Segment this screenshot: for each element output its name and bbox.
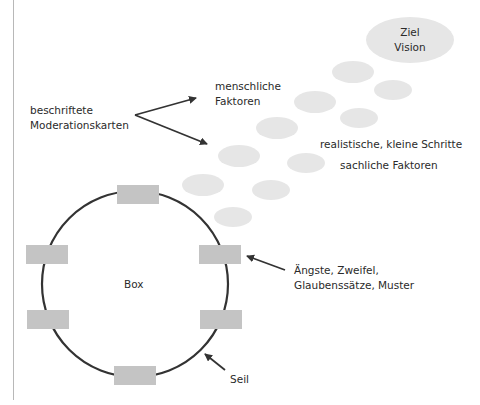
card-left-lower (27, 310, 69, 329)
fears-line1: Ängste, Zweifel, (294, 263, 414, 278)
card-top (117, 185, 159, 204)
box-label: Box (124, 277, 144, 292)
card-right-lower (200, 310, 242, 329)
human-line1: menschliche (215, 79, 281, 94)
step-ellipse (294, 91, 336, 113)
step-ellipse (287, 153, 325, 173)
step-ellipse (374, 80, 412, 100)
card-left-upper (26, 245, 68, 264)
factual-factors-label: sachliche Faktoren (340, 158, 438, 173)
step-ellipse (252, 180, 290, 200)
diagram-canvas (0, 0, 480, 405)
human-factors-label: menschliche Faktoren (215, 79, 281, 109)
human-line2: Faktoren (215, 94, 281, 109)
card-right-upper (199, 245, 241, 264)
fears-label: Ängste, Zweifel, Glaubenssätze, Muster (294, 263, 414, 293)
goal-line2: Vision (385, 40, 435, 55)
step-ellipse (340, 108, 378, 128)
goal-line1: Ziel (385, 25, 435, 40)
arrow-to-rope (205, 354, 225, 370)
arrow-to-human-factors (135, 98, 196, 115)
rope-label: Seil (230, 372, 249, 387)
cards-label: beschriftete Moderationskarten (30, 103, 129, 133)
fears-line2: Glaubenssätze, Muster (294, 278, 414, 293)
arrow-to-card-fears (247, 256, 285, 270)
step-ellipse (256, 117, 298, 139)
step-ellipse (332, 61, 374, 83)
arrow-to-factual-factors (135, 115, 207, 144)
step-ellipse (218, 145, 260, 167)
cards-line2: Moderationskarten (30, 118, 129, 133)
card-bottom (114, 366, 156, 385)
steps-label: realistische, kleine Schritte (320, 137, 462, 152)
goal-vision-label: Ziel Vision (385, 25, 435, 55)
cards-line1: beschriftete (30, 103, 129, 118)
step-ellipse (182, 174, 224, 196)
step-ellipse (214, 207, 252, 227)
